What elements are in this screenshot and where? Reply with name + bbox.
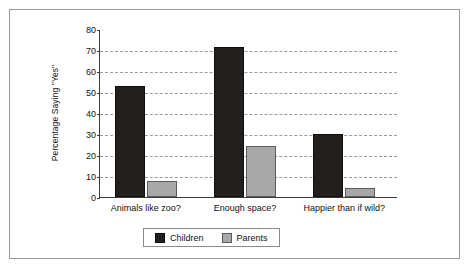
y-axis-tick-mark: [97, 93, 100, 94]
y-axis-tick-mark: [97, 51, 100, 52]
y-axis-tick-label: 40: [86, 109, 96, 119]
y-axis-tick-label: 60: [86, 67, 96, 77]
legend-label: Parents: [237, 233, 268, 243]
parents-swatch-icon: [222, 233, 232, 243]
bar-children-0: [115, 86, 145, 197]
gridline: [100, 72, 397, 73]
bar-parents-2: [345, 188, 375, 197]
y-axis-tick-mark: [97, 30, 100, 31]
bar-parents-1: [246, 146, 276, 197]
y-axis-title: Percentage Saying "Yes": [50, 28, 60, 198]
plot-area: 01020304050607080: [99, 30, 397, 198]
y-axis-tick-mark: [97, 156, 100, 157]
y-axis-tick-mark: [97, 72, 100, 73]
bar-children-1: [214, 47, 244, 197]
y-axis-tick-mark: [97, 177, 100, 178]
chart-legend: ChildrenParents: [143, 228, 280, 247]
y-axis-tick-mark: [97, 114, 100, 115]
legend-entry-children[interactable]: Children: [155, 233, 204, 243]
x-axis-category-label: Enough space?: [214, 203, 277, 213]
legend-label: Children: [170, 233, 204, 243]
legend-entry-parents[interactable]: Parents: [222, 233, 268, 243]
gridline: [100, 51, 397, 52]
y-axis-tick-label: 0: [91, 193, 96, 203]
y-axis-tick-label: 20: [86, 151, 96, 161]
y-axis-tick-label: 70: [86, 46, 96, 56]
y-axis-tick-label: 80: [86, 25, 96, 35]
bar-chart-figure: Percentage Saying "Yes" 0102030405060708…: [0, 0, 474, 275]
x-axis-category-label: Happier than if wild?: [304, 203, 386, 213]
y-axis-tick-label: 50: [86, 88, 96, 98]
bar-children-2: [313, 134, 343, 197]
bar-parents-0: [147, 181, 177, 197]
children-swatch-icon: [155, 233, 165, 243]
y-axis-tick-mark: [97, 135, 100, 136]
x-axis-category-label: Animals like zoo?: [111, 203, 181, 213]
y-axis-tick-mark: [97, 198, 100, 199]
y-axis-tick-label: 30: [86, 130, 96, 140]
y-axis-tick-label: 10: [86, 172, 96, 182]
